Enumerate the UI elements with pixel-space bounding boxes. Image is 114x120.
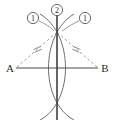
vertical-line-callout-label: 2 (55, 6, 59, 15)
leader-line-right-callout (62, 21, 79, 31)
left-arc-callout: 1 (27, 12, 38, 23)
vertical-line-callout: 2 (51, 4, 62, 15)
point-label-a: A (6, 62, 14, 74)
right-arc-callout: 1 (79, 12, 90, 23)
construction-diagram-canvas: 1 2 1 A B (0, 0, 114, 120)
right-arc-callout-label: 1 (83, 14, 87, 23)
geometric-construction-figure: 1 2 1 A B (0, 0, 114, 120)
leader-line-left-callout (39, 21, 54, 31)
left-arc-callout-label: 1 (31, 14, 35, 23)
point-label-b: B (101, 62, 108, 74)
